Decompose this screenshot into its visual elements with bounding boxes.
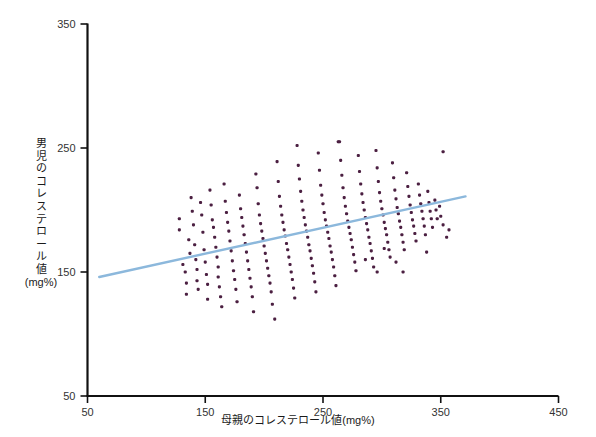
scatter-point — [281, 221, 284, 224]
scatter-point — [409, 203, 412, 206]
scatter-point — [425, 251, 428, 254]
scatter-point — [426, 190, 429, 193]
scatter-point — [271, 303, 274, 306]
scatter-point — [250, 285, 253, 288]
scatter-point — [264, 252, 267, 255]
scatter-point — [266, 267, 269, 270]
y-axis-title-char: コ — [20, 175, 62, 188]
x-tick-label: 50 — [81, 406, 93, 418]
scatter-point — [224, 200, 227, 203]
scatter-point — [283, 228, 286, 231]
scatter-point — [206, 298, 209, 301]
scatter-point — [323, 211, 326, 214]
scatter-point — [265, 259, 268, 262]
scatter-point — [364, 258, 367, 261]
scatter-point — [312, 272, 315, 275]
scatter-point — [211, 218, 214, 221]
scatter-point — [191, 210, 194, 213]
scatter-point — [406, 185, 409, 188]
scatter-point — [383, 247, 386, 250]
scatter-point — [231, 259, 234, 262]
scatter-point — [418, 194, 421, 197]
scatter-point — [357, 154, 360, 157]
scatter-point — [201, 231, 204, 234]
scatter-point — [243, 233, 246, 236]
scatter-point — [225, 211, 228, 214]
scatter-point — [248, 277, 251, 280]
scatter-point — [190, 196, 193, 199]
scatter-point — [365, 222, 368, 225]
scatter-point — [370, 249, 373, 252]
scatter-point — [319, 184, 322, 187]
scatter-point — [447, 228, 450, 231]
scatter-point — [405, 171, 408, 174]
scatter-chart-figure: 50150250350 50150250350450 母親のコレステロール値(m… — [0, 0, 596, 437]
scatter-point — [361, 201, 364, 204]
y-axis-title-char: レ — [20, 187, 62, 200]
scatter-point — [412, 225, 415, 228]
y-axis-title-char: 児 — [20, 150, 62, 163]
scatter-point — [260, 230, 263, 233]
scatter-point — [285, 242, 288, 245]
scatter-point — [307, 243, 310, 246]
scatter-point — [394, 197, 397, 200]
scatter-point — [206, 283, 209, 286]
scatter-point — [359, 182, 362, 185]
scatter-point — [413, 232, 416, 235]
scatter-point — [360, 192, 363, 195]
scatter-point — [291, 278, 294, 281]
scatter-point — [276, 160, 279, 163]
y-tick-label: 50 — [63, 390, 75, 402]
scatter-point — [184, 270, 187, 273]
scatter-point — [407, 195, 410, 198]
scatter-point — [434, 208, 437, 211]
scatter-point — [300, 200, 303, 203]
scatter-point — [256, 186, 259, 189]
scatter-point — [230, 249, 233, 252]
scatter-point — [340, 174, 343, 177]
scatter-point — [286, 248, 289, 251]
scatter-point — [402, 270, 405, 273]
scatter-point — [400, 233, 403, 236]
scatter-point — [403, 248, 406, 251]
scatter-point — [258, 213, 261, 216]
scatter-point — [303, 216, 306, 219]
x-tick-label: 150 — [196, 406, 214, 418]
scatter-point — [228, 239, 231, 242]
scatter-point — [233, 278, 236, 281]
scatter-point — [178, 228, 181, 231]
scatter-point — [247, 268, 250, 271]
scatter-point — [301, 208, 304, 211]
scatter-point — [218, 285, 221, 288]
scatter-point — [212, 226, 215, 229]
scatter-point — [273, 318, 276, 321]
scatter-point — [185, 293, 188, 296]
scatter-point — [217, 265, 220, 268]
scatter-point — [205, 273, 208, 276]
scatter-point — [354, 269, 357, 272]
scatter-point — [386, 241, 389, 244]
scatter-point — [411, 218, 414, 221]
scatter-point — [270, 290, 273, 293]
y-axis-title-char: ス — [20, 200, 62, 213]
scatter-point — [389, 256, 392, 259]
scatter-point — [442, 223, 445, 226]
scatter-point — [181, 263, 184, 266]
scatter-point — [376, 166, 379, 169]
scatter-point — [195, 279, 198, 282]
scatter-point — [188, 252, 191, 255]
scatter-point — [402, 241, 405, 244]
scatter-point — [306, 236, 309, 239]
scatter-point — [363, 208, 366, 211]
scatter-point — [280, 213, 283, 216]
scatter-point — [392, 176, 395, 179]
scatter-point — [268, 282, 271, 285]
scatter-point — [257, 202, 260, 205]
scatter-point — [241, 225, 244, 228]
scatter-point — [397, 212, 400, 215]
scatter-point — [445, 236, 448, 239]
scatter-point — [197, 288, 200, 291]
scatter-point — [251, 295, 254, 298]
scatter-point — [379, 200, 382, 203]
scatter-point — [398, 220, 401, 223]
